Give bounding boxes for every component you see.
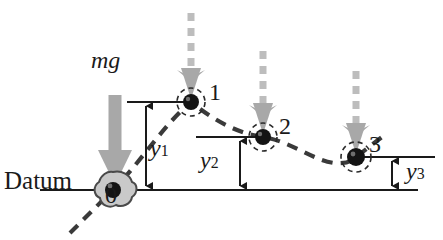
gravity-arrow-2 [249, 51, 277, 134]
position-label-2: 2 [279, 114, 291, 138]
position-label-0: 0 [105, 183, 117, 207]
height-label-y1: y1 [150, 136, 169, 160]
height-label-y3: y3 [406, 159, 425, 183]
height-subscript-y1: 1 [161, 142, 169, 159]
gravity-force-label: mg [91, 48, 120, 72]
height-subscript-y3: 3 [417, 165, 425, 182]
height-subscript-y2: 2 [211, 154, 219, 171]
physics-energy-diagram: Datum mg 0 1 2 3 y1 y2 y3 [0, 0, 443, 240]
height-symbol-y1: y [150, 135, 161, 161]
height-label-y2: y2 [200, 148, 219, 172]
height-symbol-y2: y [200, 147, 211, 173]
gravity-arrow-1 [177, 13, 205, 99]
position-label-3: 3 [369, 132, 381, 156]
datum-label: Datum [4, 168, 72, 193]
height-symbol-y3: y [406, 158, 417, 184]
diagram-canvas [0, 0, 443, 240]
position-label-1: 1 [209, 80, 221, 104]
gravity-arrow-3 [342, 71, 370, 154]
